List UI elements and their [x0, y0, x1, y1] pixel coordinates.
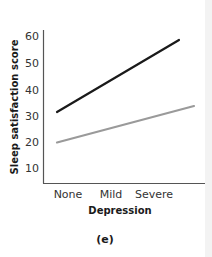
y-tick-20: 20	[25, 136, 39, 149]
y-tick-40: 40	[25, 84, 39, 97]
series-black-line	[57, 40, 179, 112]
line-chart: 60 50 40 30 20 10 Sleep satisfaction sco…	[0, 0, 212, 257]
series-gray-line	[57, 106, 194, 143]
panel-label: (e)	[96, 233, 114, 246]
y-tick-50: 50	[25, 57, 39, 70]
x-axis-title: Depression	[88, 205, 151, 216]
y-tick-10: 10	[25, 162, 39, 175]
x-tick-labels: None Mild Severe	[54, 188, 174, 201]
x-tick-mild: Mild	[100, 188, 123, 201]
x-tick-none: None	[54, 188, 83, 201]
y-axis-title: Sleep satisfaction score	[9, 39, 20, 174]
x-tick-severe: Severe	[135, 188, 173, 201]
y-tick-30: 30	[25, 110, 39, 123]
y-tick-60: 60	[25, 30, 39, 43]
y-tick-labels: 60 50 40 30 20 10	[25, 30, 39, 175]
